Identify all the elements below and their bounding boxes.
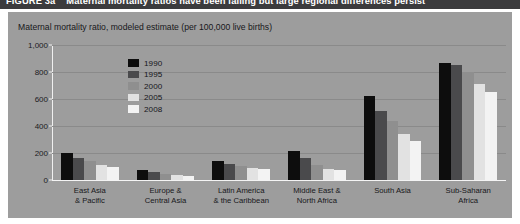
y-axis-tick-label: 1,000 [28, 41, 48, 50]
figure-number: FIGURE 3a [6, 0, 55, 6]
legend-swatch-icon [128, 105, 139, 113]
bar-2005[interactable] [398, 134, 410, 180]
bar-2000[interactable] [387, 121, 399, 180]
x-axis-category-line: Latin America [213, 186, 269, 196]
legend-item[interactable]: 2000 [128, 81, 162, 91]
y-axis-tick-label: 200 [35, 149, 48, 158]
bar-1995[interactable] [451, 65, 463, 180]
bar-2005[interactable] [323, 169, 335, 180]
bar-2008[interactable] [334, 170, 346, 180]
legend-label: 1990 [144, 59, 162, 68]
legend-swatch-icon [128, 94, 139, 102]
legend-label: 2005 [144, 93, 162, 102]
bar-set [52, 45, 128, 180]
bar-1995[interactable] [300, 158, 312, 180]
bar-1990[interactable] [364, 96, 376, 180]
bar-2000[interactable] [462, 72, 474, 180]
figure-header: FIGURE 3a Maternal mortality ratios have… [0, 0, 520, 9]
x-axis-category-line: & the Caribbean [213, 196, 269, 206]
x-axis-category-label: East Asia& Pacific [74, 186, 106, 205]
chart-panel: Maternal mortality ratio, modeled estima… [8, 12, 512, 218]
bar-2005[interactable] [474, 84, 486, 180]
bar-2008[interactable] [258, 169, 270, 180]
bar-2005[interactable] [247, 168, 259, 180]
x-axis-category-line: Sub-Saharan [446, 186, 491, 196]
bar-2008[interactable] [183, 176, 195, 180]
figure-title: Maternal mortality ratios have been fall… [66, 0, 425, 6]
x-axis-category-line: South Asia [374, 186, 411, 196]
legend-item[interactable]: 2005 [128, 93, 162, 103]
bar-1995[interactable] [73, 158, 85, 180]
legend-swatch-icon [128, 82, 139, 90]
y-axis-tick-label: 800 [35, 68, 48, 77]
bar-1990[interactable] [288, 151, 300, 180]
figure-screenshot: FIGURE 3a Maternal mortality ratios have… [0, 0, 520, 224]
bar-2008[interactable] [485, 92, 497, 180]
chart-subtitle: Maternal mortality ratio, modeled estima… [18, 22, 272, 32]
bar-1990[interactable] [439, 63, 451, 180]
bar-set [203, 45, 279, 180]
legend-label: 2000 [144, 82, 162, 91]
legend-label: 1995 [144, 70, 162, 79]
x-axis-category-label: Sub-SaharanAfrica [446, 186, 491, 205]
x-axis-category-line: Middle East & [293, 186, 340, 196]
bar-2008[interactable] [107, 167, 119, 180]
x-axis-category-line: Central Asia [145, 196, 186, 206]
bar-1995[interactable] [375, 111, 387, 180]
x-axis-category-label: Latin America& the Caribbean [213, 186, 269, 205]
bar-1995[interactable] [224, 164, 236, 180]
bar-2000[interactable] [84, 161, 96, 180]
legend-item[interactable]: 1990 [128, 58, 162, 68]
bar-group: Middle East &North Africa [279, 45, 355, 180]
bar-group: Sub-SaharanAfrica [430, 45, 506, 180]
bar-2000[interactable] [160, 174, 172, 180]
legend-swatch-icon [128, 71, 139, 79]
chart-legend: 19901995200020052008 [128, 58, 162, 114]
bar-group: East Asia& Pacific [52, 45, 128, 180]
legend-item[interactable]: 2008 [128, 104, 162, 114]
bar-group: Latin America& the Caribbean [203, 45, 279, 180]
plot-area: 02004006008001,000 East Asia& PacificEur… [52, 45, 506, 180]
x-axis-category-label: South Asia [374, 186, 411, 196]
x-axis-category-label: Europe &Central Asia [145, 186, 186, 205]
y-axis-tick-label: 0 [44, 176, 48, 185]
legend-swatch-icon [128, 59, 139, 67]
bar-2005[interactable] [96, 165, 108, 180]
x-axis-category-line: North Africa [293, 196, 340, 206]
bar-2005[interactable] [171, 175, 183, 180]
y-axis-tick-label: 400 [35, 122, 48, 131]
bar-group: South Asia [355, 45, 431, 180]
legend-label: 2008 [144, 105, 162, 114]
bar-1995[interactable] [148, 172, 160, 180]
x-axis-category-line: Europe & [145, 186, 186, 196]
bar-1990[interactable] [137, 170, 149, 180]
x-axis-category-line: & Pacific [74, 196, 106, 206]
bar-set [279, 45, 355, 180]
y-axis-tick-label: 600 [35, 95, 48, 104]
bar-1990[interactable] [61, 153, 73, 180]
bar-set [430, 45, 506, 180]
bar-2000[interactable] [235, 166, 247, 180]
x-axis-category-line: Africa [446, 196, 491, 206]
legend-item[interactable]: 1995 [128, 70, 162, 80]
bar-1990[interactable] [212, 161, 224, 180]
bar-2008[interactable] [410, 141, 422, 180]
bar-2000[interactable] [311, 165, 323, 180]
bar-set [355, 45, 431, 180]
x-axis-category-line: East Asia [74, 186, 106, 196]
x-axis-category-label: Middle East &North Africa [293, 186, 340, 205]
bar-groups: East Asia& PacificEurope &Central AsiaLa… [52, 45, 506, 180]
